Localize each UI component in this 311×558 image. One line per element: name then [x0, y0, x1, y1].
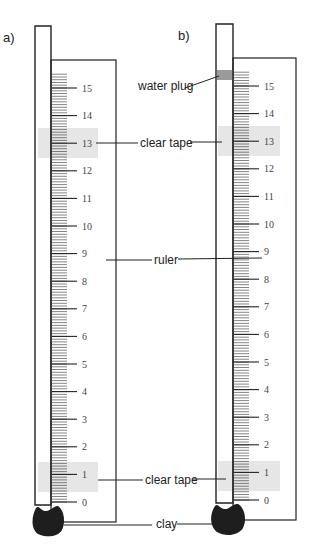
callout-water-plug: water plug: [137, 79, 193, 93]
ruler-number: 0: [264, 495, 269, 506]
ruler-number: 5: [264, 357, 269, 368]
callout-ruler: ruler: [154, 253, 178, 267]
apparatus-b: 0123456789101112131415: [211, 24, 296, 535]
ruler-number: 10: [82, 221, 92, 232]
ruler-number: 2: [264, 439, 269, 450]
ruler-number: 2: [82, 441, 87, 452]
ruler-number: 15: [82, 83, 92, 94]
ruler-number: 13: [264, 136, 274, 147]
ruler-number: 7: [82, 303, 87, 314]
ruler-number: 13: [82, 138, 92, 149]
ruler-number: 4: [82, 386, 87, 397]
callout-clay: clay: [156, 517, 177, 531]
panel-label-a: a): [3, 30, 15, 45]
ruler-number: 7: [264, 301, 269, 312]
ruler-number: 14: [264, 108, 274, 119]
ruler-number: 12: [82, 165, 92, 176]
ruler-number: 12: [264, 163, 274, 174]
callout-clear-tape-top: clear tape: [140, 136, 193, 150]
ruler-number: 1: [82, 469, 87, 480]
ruler-number: 9: [264, 246, 269, 257]
clear-tape-bottom-a: [38, 462, 98, 492]
ruler-number: 6: [82, 331, 87, 342]
ruler-number: 9: [82, 248, 87, 259]
ruler-number: 15: [264, 81, 274, 92]
ruler-number: 11: [82, 193, 92, 204]
ruler-numbers-b: 0123456789101112131415: [264, 81, 274, 506]
clay-b: [211, 504, 245, 535]
glass-tube-a: [35, 26, 51, 505]
ruler-numbers-a: 0123456789101112131415: [82, 83, 92, 508]
ruler-number: 8: [82, 276, 87, 287]
callout-clear-tape-bottom: clear tape: [145, 473, 198, 487]
ruler-number: 5: [82, 359, 87, 370]
apparatus-a: 0123456789101112131415: [33, 26, 117, 536]
ruler-number: 10: [264, 219, 274, 230]
ruler-number: 6: [264, 329, 269, 340]
ruler-number: 14: [82, 110, 92, 121]
ruler-number: 4: [264, 384, 269, 395]
ruler-number: 8: [264, 274, 269, 285]
ruler-number: 11: [264, 191, 274, 202]
leader-ruler-b: [178, 258, 262, 259]
ruler-number: 0: [82, 497, 87, 508]
clay-a: [33, 506, 65, 536]
water-plug: [217, 70, 233, 80]
thermometer-diagram: a) b) 0123456789101112131415 01234567891…: [0, 0, 311, 558]
ruler-number: 3: [82, 414, 87, 425]
ruler-number: 1: [264, 467, 269, 478]
glass-tube-b: [216, 24, 233, 503]
ruler-number: 3: [264, 412, 269, 423]
panel-label-b: b): [178, 28, 190, 43]
